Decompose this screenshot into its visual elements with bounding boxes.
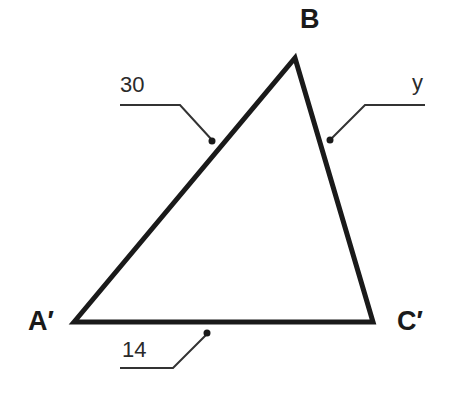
side-label-bc: y bbox=[412, 70, 423, 95]
vertex-label-c: C′ bbox=[397, 306, 423, 336]
vertex-label-b: B bbox=[300, 4, 320, 34]
leader-side-ab bbox=[120, 105, 216, 145]
side-label-ac: 14 bbox=[122, 337, 146, 362]
triangle-diagram: 30 y 14 B A′ C′ bbox=[0, 0, 449, 402]
vertex-label-a: A′ bbox=[28, 306, 54, 336]
side-label-ab: 30 bbox=[120, 72, 144, 97]
triangle-shape bbox=[74, 58, 373, 322]
leader-side-bc bbox=[327, 105, 426, 144]
